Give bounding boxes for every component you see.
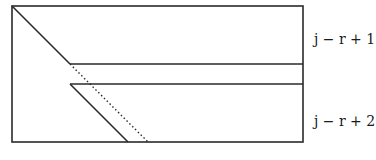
dotted-diagonal-line xyxy=(70,64,148,142)
diagram-canvas xyxy=(0,0,376,160)
label-upper-region: j − r + 1 xyxy=(314,31,375,47)
label-upper-text: j − r + 1 xyxy=(314,31,375,47)
label-lower-text: j − r + 2 xyxy=(314,113,375,129)
outer-rectangle xyxy=(12,6,303,142)
main-diagonal-line xyxy=(12,6,70,64)
label-lower-region: j − r + 2 xyxy=(314,113,375,129)
